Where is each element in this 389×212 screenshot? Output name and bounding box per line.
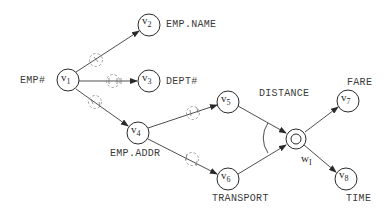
edge-v4-v5: [148, 105, 217, 128]
edge-v6-wI: [238, 145, 286, 174]
edge-wI-v7: [305, 107, 338, 132]
node-wI-label: wI: [301, 152, 312, 167]
label-distance: DISTANCE: [259, 88, 309, 99]
label-dept-num: DEPT#: [166, 76, 198, 87]
semantic-network-diagram: v1 v2 v3 v4 v5 v6 v7 v8 wI: [0, 0, 389, 212]
edge-v1-v4: [76, 89, 128, 126]
label-time: TIME: [346, 193, 371, 204]
node-wI-inner: [291, 134, 301, 144]
label-transport: TRANSPORT: [212, 193, 269, 204]
and-arc-icon: [263, 123, 268, 153]
edge-v1-v2: [76, 31, 139, 72]
label-fare: FARE: [347, 77, 372, 88]
edge-v5-wI: [238, 106, 286, 133]
label-emp-addr: EMP.ADDR: [110, 148, 160, 159]
label-emp-num: EMP#: [20, 75, 45, 86]
label-emp-name: EMP.NAME: [166, 19, 216, 30]
